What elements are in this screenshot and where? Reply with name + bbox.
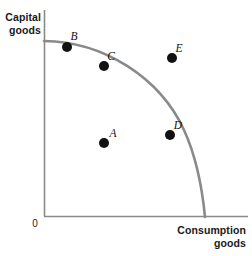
data-point-label-e: E (175, 42, 182, 54)
data-point-e-marker (167, 53, 177, 63)
x-axis-title-line-2: goods (150, 237, 246, 250)
y-axis-title: Capital goods (0, 11, 41, 36)
x-axis-title: Consumption goods (150, 224, 246, 249)
x-axis-title-line-1: Consumption (150, 224, 246, 237)
data-point-label-b: B (70, 30, 77, 42)
y-axis-title-line-1: Capital (0, 11, 41, 24)
data-point-label-d: D (174, 119, 182, 131)
origin-label: 0 (29, 218, 41, 229)
data-point-c-marker (99, 61, 109, 71)
data-point-b-marker (62, 42, 72, 52)
data-point-d-marker (165, 130, 175, 140)
data-point-label-c: C (107, 50, 115, 62)
data-point-label-a: A (109, 127, 116, 139)
data-point-a-marker (99, 138, 109, 148)
y-axis-title-line-2: goods (0, 24, 41, 37)
ppf-chart: Capital goods Consumption goods 0 B C E … (0, 0, 252, 256)
